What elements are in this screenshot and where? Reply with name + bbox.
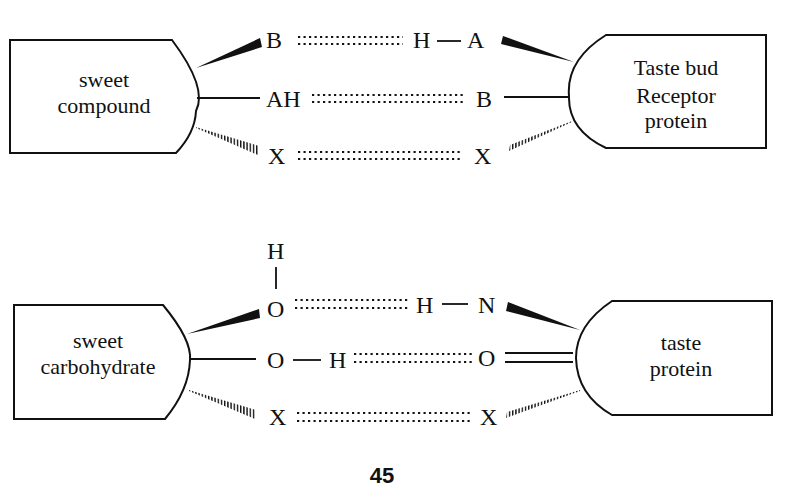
- sweet-compound-label-line2: compound: [58, 93, 151, 118]
- atom-H: H: [329, 347, 346, 373]
- top-diagram: sweet compound Taste bud Receptor protei…: [10, 27, 766, 169]
- atom-O: O: [267, 347, 284, 373]
- atom-X: X: [268, 143, 285, 169]
- atom-B: B: [266, 27, 282, 53]
- wedge-bond-left: [187, 309, 260, 334]
- atom-H: H: [267, 238, 284, 264]
- wedge-bond-right: [501, 36, 574, 62]
- atom-H: H: [413, 27, 430, 53]
- receptor-label-line1: Taste bud: [634, 55, 719, 80]
- atom-N: N: [478, 292, 495, 318]
- atom-B: B: [476, 86, 492, 112]
- receptor-label-line3: protein: [645, 108, 707, 133]
- page-number: 45: [370, 463, 394, 488]
- hashed-bond-right: [506, 390, 580, 418]
- carbohydrate-label-line2: carbohydrate: [41, 354, 156, 379]
- hashed-bond-right: [509, 121, 572, 151]
- hashed-bond-left: [196, 127, 259, 155]
- sweet-compound-label-line1: sweet: [79, 67, 129, 92]
- atom-O: O: [478, 345, 495, 371]
- atom-A: A: [467, 27, 485, 53]
- receptor-label-line2: Receptor: [636, 83, 716, 108]
- bottom-diagram: sweet carbohydrate taste protein H O H N…: [14, 238, 772, 430]
- sweet-taste-diagram: sweet compound Taste bud Receptor protei…: [0, 0, 801, 491]
- atom-AH: AH: [266, 86, 301, 112]
- taste-protein-label-line2: protein: [650, 356, 712, 381]
- atom-H: H: [416, 292, 433, 318]
- atom-X: X: [269, 404, 286, 430]
- wedge-bond-left: [196, 38, 262, 68]
- wedge-bond-right: [506, 302, 580, 330]
- carbohydrate-label-line1: sweet: [73, 328, 123, 353]
- atom-O: O: [267, 296, 284, 322]
- atom-X: X: [474, 143, 491, 169]
- hashed-bond-left: [189, 390, 256, 419]
- atom-X: X: [480, 404, 497, 430]
- taste-protein-label-line1: taste: [661, 330, 701, 355]
